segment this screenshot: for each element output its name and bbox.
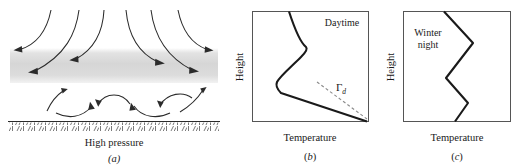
panel-b-xlabel: Temperature <box>284 132 337 143</box>
panel-b: Daytime Γd Temperature Height (b) <box>228 0 376 167</box>
daytime-temperature-profile <box>276 12 367 122</box>
panel-c-caption-letter: c <box>455 151 460 162</box>
flow-arrow <box>56 106 92 117</box>
panel-b-canvas: Daytime Γd Temperature Height (b) <box>228 0 376 167</box>
flow-arrow <box>178 10 207 50</box>
panel-c: Winter night Temperature Height (c) <box>376 0 525 167</box>
panel-a-caption: (a) <box>108 153 121 165</box>
panel-b-ylabel: Height <box>234 53 245 82</box>
surface-divergence-arrows <box>47 87 207 117</box>
flow-arrow <box>160 94 192 105</box>
flow-arrow <box>180 90 203 112</box>
winter-night-temperature-profile <box>444 12 473 122</box>
panel-c-title-line2: night <box>418 39 439 50</box>
gamma-subscript: d <box>342 87 346 96</box>
flow-arrow <box>98 95 130 104</box>
panel-b-title: Daytime <box>325 17 360 28</box>
high-pressure-label: High pressure <box>85 137 144 148</box>
panel-b-caption-letter: b <box>307 151 312 162</box>
flow-arrow <box>20 10 51 50</box>
panel-c-ylabel: Height <box>385 53 396 82</box>
flow-arrow <box>47 91 63 111</box>
panel-a-caption-letter: a <box>111 153 116 164</box>
panel-c-canvas: Winter night Temperature Height (c) <box>376 0 525 167</box>
figure-root: High pressure (a) Daytime Γd Temperature… <box>0 0 525 167</box>
arrowhead <box>61 88 68 94</box>
panel-c-title-line1: Winter <box>414 27 442 38</box>
dry-adiabat-label: Γd <box>336 81 346 96</box>
inversion-layer-band <box>10 48 218 83</box>
panel-b-plot-frame <box>253 12 369 122</box>
panel-a-canvas: High pressure (a) <box>0 0 228 167</box>
panel-a: High pressure (a) <box>0 0 228 167</box>
panel-c-caption: (c) <box>451 151 463 163</box>
panel-c-xlabel: Temperature <box>431 132 484 143</box>
panel-b-caption: (b) <box>304 151 317 163</box>
flow-arrow <box>134 106 170 117</box>
arrowhead <box>88 102 95 110</box>
ground-hatching <box>9 123 219 132</box>
